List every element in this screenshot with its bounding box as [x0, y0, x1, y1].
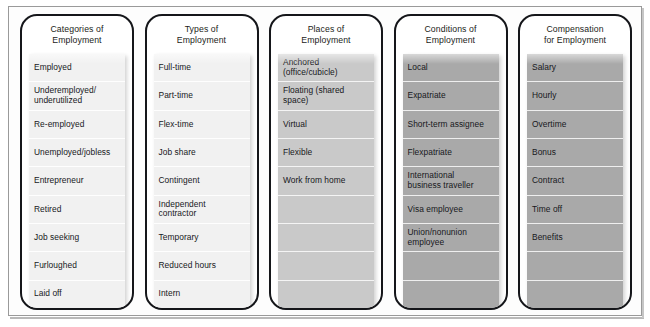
- list-item[interactable]: Bonus: [527, 139, 623, 167]
- column-title: Places of Employment: [296, 24, 355, 50]
- list-item[interactable]: Time off: [527, 196, 623, 224]
- list-item-label: Flex-time: [159, 120, 194, 130]
- list-item-label: Bonus: [532, 148, 556, 158]
- list-item-label: Expatriate: [408, 91, 446, 101]
- list-item[interactable]: Retired: [29, 196, 125, 224]
- list-item-label: Full-time: [159, 63, 192, 73]
- list-item[interactable]: Hourly: [527, 82, 623, 110]
- list-item[interactable]: Anchored (office/cubicle): [278, 54, 374, 82]
- list-item[interactable]: Job seeking: [29, 224, 125, 252]
- column-container: Categories of EmploymentEmployedUnderemp…: [20, 14, 632, 310]
- list-item-label: Union/nonunion employee: [408, 228, 467, 247]
- column-card-compensation-for-employment[interactable]: Compensation for EmploymentSalaryHourlyO…: [518, 14, 632, 310]
- column-list-panel: Full-timePart-timeFlex-timeJob shareCont…: [154, 54, 250, 308]
- list-item-label: Furloughed: [34, 261, 77, 271]
- column-card-categories-of-employment[interactable]: Categories of EmploymentEmployedUnderemp…: [20, 14, 134, 310]
- list-item-empty: [278, 196, 374, 224]
- list-item-label: Employed: [34, 63, 72, 73]
- list-item-empty: [527, 281, 623, 308]
- list-item[interactable]: Temporary: [154, 224, 250, 252]
- list-item[interactable]: Visa employee: [403, 196, 499, 224]
- list-item-label: Job share: [159, 148, 196, 158]
- list-item[interactable]: Employed: [29, 54, 125, 82]
- list-item-empty: [278, 281, 374, 308]
- list-item[interactable]: Furloughed: [29, 252, 125, 280]
- list-item[interactable]: Virtual: [278, 111, 374, 139]
- list-item-label: Visa employee: [408, 205, 463, 215]
- list-item[interactable]: Laid off: [29, 281, 125, 308]
- column-card-conditions-of-employment[interactable]: Conditions of EmploymentLocalExpatriateS…: [394, 14, 508, 310]
- list-item[interactable]: International business traveller: [403, 167, 499, 195]
- list-item[interactable]: Part-time: [154, 82, 250, 110]
- employment-taxonomy-figure: Categories of EmploymentEmployedUnderemp…: [0, 0, 650, 327]
- list-item[interactable]: Benefits: [527, 224, 623, 252]
- column-card-types-of-employment[interactable]: Types of EmploymentFull-timePart-timeFle…: [145, 14, 259, 310]
- list-item[interactable]: Re-employed: [29, 111, 125, 139]
- list-item-label: Flexible: [283, 148, 312, 158]
- column-card-places-of-employment[interactable]: Places of EmploymentAnchored (office/cub…: [269, 14, 383, 310]
- list-item-label: Re-employed: [34, 120, 84, 130]
- list-item[interactable]: Floating (shared space): [278, 82, 374, 110]
- figure-frame-shadow-bottom: [10, 317, 644, 319]
- column-list-panel: Anchored (office/cubicle)Floating (share…: [278, 54, 374, 308]
- list-item[interactable]: Intern: [154, 281, 250, 308]
- list-item-label: Salary: [532, 63, 556, 73]
- list-item[interactable]: Short-term assignee: [403, 111, 499, 139]
- list-item[interactable]: Full-time: [154, 54, 250, 82]
- list-item-empty: [403, 281, 499, 308]
- column-title: Conditions of Employment: [419, 24, 481, 50]
- list-item-label: Reduced hours: [159, 261, 216, 271]
- list-item-label: Contract: [532, 176, 564, 186]
- list-item-label: Underemployed/ underutilized: [34, 86, 96, 105]
- list-item-label: Intern: [159, 289, 181, 299]
- column-list-panel: LocalExpatriateShort-term assigneeFlexpa…: [403, 54, 499, 308]
- list-item[interactable]: Union/nonunion employee: [403, 224, 499, 252]
- list-item[interactable]: Work from home: [278, 167, 374, 195]
- list-item-label: Virtual: [283, 120, 307, 130]
- list-item-label: Contingent: [159, 176, 200, 186]
- list-item-label: Floating (shared space): [283, 86, 344, 105]
- column-title: Compensation for Employment: [539, 24, 611, 50]
- list-item[interactable]: Salary: [527, 54, 623, 82]
- list-item-empty: [278, 252, 374, 280]
- column-list-panel: SalaryHourlyOvertimeBonusContractTime of…: [527, 54, 623, 308]
- list-item[interactable]: Local: [403, 54, 499, 82]
- column-list-panel: EmployedUnderemployed/ underutilizedRe-e…: [29, 54, 125, 308]
- list-item-label: Local: [408, 63, 428, 73]
- list-item[interactable]: Flexpatriate: [403, 139, 499, 167]
- list-item-label: Independent contractor: [159, 200, 206, 219]
- list-item-label: Entrepreneur: [34, 176, 83, 186]
- list-item[interactable]: Expatriate: [403, 82, 499, 110]
- list-item-label: Hourly: [532, 91, 557, 101]
- list-item[interactable]: Underemployed/ underutilized: [29, 82, 125, 110]
- list-item-label: Job seeking: [34, 233, 79, 243]
- list-item-label: Part-time: [159, 91, 193, 101]
- list-item-label: Unemployed/jobless: [34, 148, 110, 158]
- list-item[interactable]: Entrepreneur: [29, 167, 125, 195]
- list-item-label: Flexpatriate: [408, 148, 452, 158]
- list-item-label: Benefits: [532, 233, 563, 243]
- list-item[interactable]: Contract: [527, 167, 623, 195]
- list-item-empty: [527, 252, 623, 280]
- list-item[interactable]: Flex-time: [154, 111, 250, 139]
- list-item[interactable]: Reduced hours: [154, 252, 250, 280]
- figure-frame-shadow-right: [642, 8, 644, 318]
- list-item[interactable]: Independent contractor: [154, 196, 250, 224]
- list-item[interactable]: Flexible: [278, 139, 374, 167]
- list-item-label: Time off: [532, 205, 562, 215]
- list-item-label: Work from home: [283, 176, 345, 186]
- list-item-empty: [278, 224, 374, 252]
- list-item-label: Temporary: [159, 233, 199, 243]
- list-item-label: Overtime: [532, 120, 566, 130]
- list-item[interactable]: Unemployed/jobless: [29, 139, 125, 167]
- list-item[interactable]: Overtime: [527, 111, 623, 139]
- list-item-label: Laid off: [34, 289, 62, 299]
- list-item-label: Anchored (office/cubicle): [283, 58, 338, 77]
- column-title: Types of Employment: [172, 24, 231, 50]
- list-item[interactable]: Contingent: [154, 167, 250, 195]
- list-item[interactable]: Job share: [154, 139, 250, 167]
- list-item-label: Retired: [34, 205, 61, 215]
- list-item-empty: [403, 252, 499, 280]
- list-item-label: International business traveller: [408, 171, 474, 190]
- column-title: Categories of Employment: [46, 24, 109, 50]
